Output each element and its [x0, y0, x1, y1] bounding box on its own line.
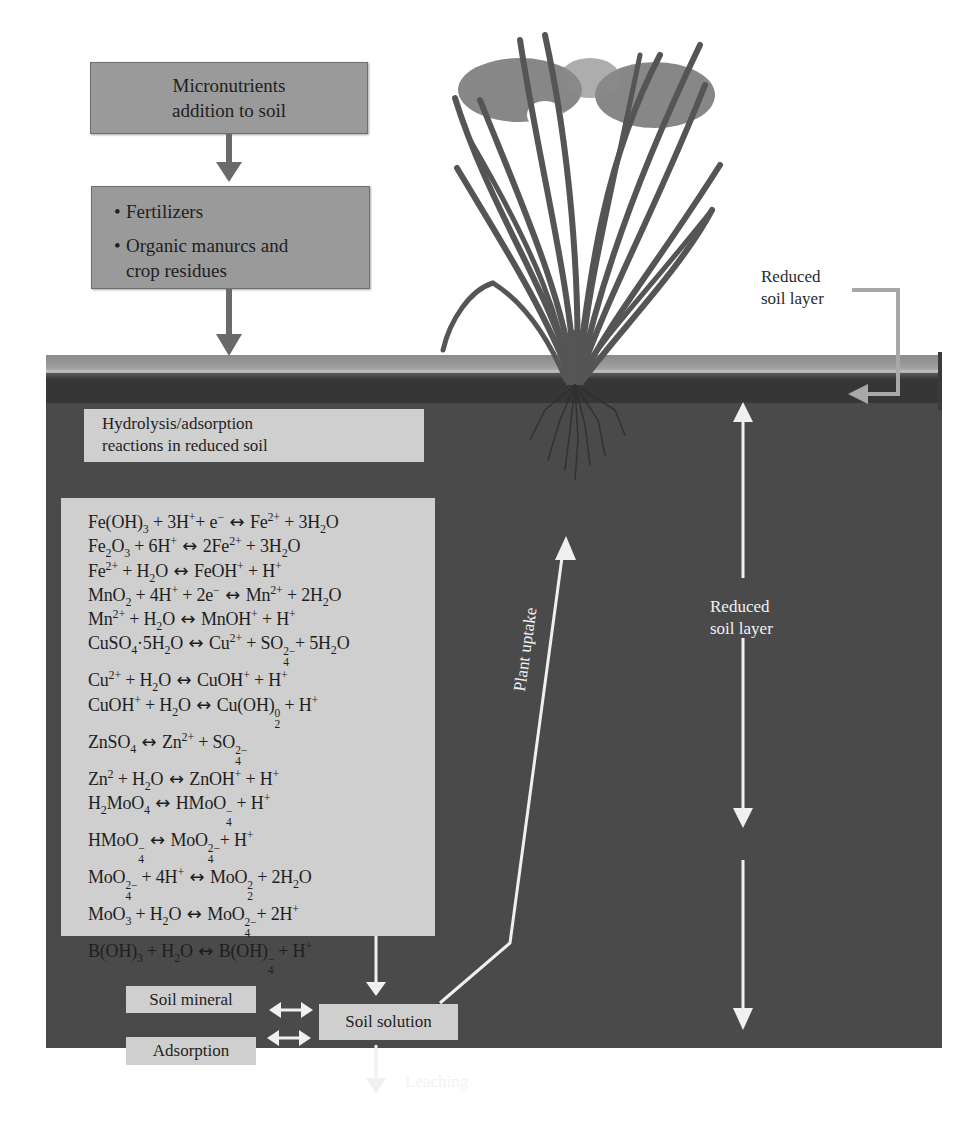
equilibrium-arrow-icon: ↔ — [220, 584, 246, 605]
reaction-lhs: MoO3 + H2O — [88, 904, 181, 924]
equilibrium-arrow-icon: ↔ — [191, 694, 217, 715]
reduced-soil-layer-depth-label: Reduced soil layer — [710, 596, 773, 640]
reaction-rhs: Fe2+ + 3H2O — [250, 512, 339, 532]
reaction-lhs: Zn2 + H2O — [88, 769, 163, 789]
reaction-lhs: HMoO−4 — [88, 830, 145, 850]
reaction-rhs: FeOH+ + H+ — [194, 561, 282, 581]
reaction-lhs: Fe2O3 + 6H+ — [88, 536, 177, 556]
plant-uptake-arrow — [440, 536, 576, 1003]
reaction-lhs: ZnSO4 — [88, 732, 136, 752]
reduced-layer-depth-arrow — [733, 402, 753, 1030]
equilibrium-arrow-icon: ↔ — [175, 608, 201, 629]
reaction-equation: B(OH)3 + H2O ↔ B(OH)−4 + H+ — [88, 939, 435, 976]
adsorption-box: Adsorption — [126, 1037, 256, 1065]
exchange-arrow-adsorption — [267, 1030, 311, 1046]
reaction-equation: H2MoO4 ↔ HMoO−4 + H+ — [88, 791, 435, 828]
reaction-equation: Zn2 + H2O ↔ ZnOH+ + H+ — [88, 767, 435, 791]
arrow-addition-to-sources — [216, 134, 242, 182]
reaction-lhs: H2MoO4 — [88, 793, 150, 813]
equilibrium-arrow-icon: ↔ — [224, 511, 250, 532]
arrow-sources-to-soil — [216, 289, 242, 356]
reaction-rhs: ZnOH+ + H+ — [189, 769, 279, 789]
reaction-equations-list: Fe(OH)3 + 3H++ e− ↔ Fe2+ + 3H2OFe2O3 + 6… — [88, 510, 435, 976]
leaching-arrow — [366, 1045, 386, 1094]
reaction-rhs: B(OH)−4 + H+ — [219, 941, 312, 961]
reaction-rhs: MoO2−4+ 2H+ — [207, 904, 299, 924]
equilibrium-arrow-icon: ↔ — [163, 768, 189, 789]
equilibrium-arrow-icon: ↔ — [136, 731, 162, 752]
reaction-equation: CuSO4·5H2O ↔ Cu2+ + SO2−4+ 5H2O — [88, 631, 435, 668]
reaction-rhs: Mn2+ + 2H2O — [246, 585, 342, 605]
reaction-lhs: MoO2−4 + 4H+ — [88, 867, 184, 887]
reaction-equation: MnO2 + 4H+ + 2e− ↔ Mn2+ + 2H2O — [88, 583, 435, 607]
reaction-lhs: B(OH)3 + H2O — [88, 941, 193, 961]
equilibrium-arrow-icon: ↔ — [150, 792, 176, 813]
reaction-equation: MoO2−4 + 4H+ ↔ MoO22 + 2H2O — [88, 865, 435, 902]
reaction-equation: Mn2+ + H2O ↔ MnOH+ + H+ — [88, 607, 435, 631]
reaction-lhs: CuOH+ + H2O — [88, 695, 191, 715]
reaction-lhs: MnO2 + 4H+ + 2e− — [88, 585, 220, 605]
reaction-rhs: Cu(OH)02 + H+ — [217, 695, 318, 715]
reaction-equation: Fe2+ + H2O ↔ FeOH+ + H+ — [88, 559, 435, 583]
equilibrium-arrow-icon: ↔ — [193, 940, 219, 961]
reduced-soil-layer-callout-label: Reduced soil layer — [761, 266, 824, 310]
reaction-lhs: Fe2+ + H2O — [88, 561, 168, 581]
equilibrium-arrow-icon: ↔ — [171, 669, 197, 690]
reaction-equation: MoO3 + H2O ↔ MoO2−4+ 2H+ — [88, 902, 435, 939]
equilibrium-arrow-icon: ↔ — [184, 866, 210, 887]
reaction-rhs: MnOH+ + H+ — [201, 609, 296, 629]
soil-mineral-box: Soil mineral — [126, 986, 256, 1013]
equilibrium-arrow-icon: ↔ — [177, 535, 203, 556]
equilibrium-arrow-icon: ↔ — [168, 560, 194, 581]
exchange-arrow-soil-mineral — [269, 1002, 313, 1018]
reaction-lhs: Cu2+ + H2O — [88, 670, 171, 690]
reaction-equation: Cu2+ + H2O ↔ CuOH+ + H+ — [88, 668, 435, 692]
reaction-equation: Fe(OH)3 + 3H++ e− ↔ Fe2+ + 3H2O — [88, 510, 435, 534]
reaction-rhs: Zn2+ + SO2−4 — [162, 732, 247, 752]
reaction-rhs: 2Fe2+ + 3H2O — [203, 536, 301, 556]
leaching-label: Leaching — [405, 1072, 468, 1092]
reaction-rhs: MoO22 + 2H2O — [210, 867, 312, 887]
reaction-rhs: MoO2−4+ H+ — [170, 830, 253, 850]
soil-solution-box: Soil solution — [319, 1004, 458, 1040]
hydrolysis-reactions-header-box: Hydrolysis/adsorption reactions in reduc… — [84, 409, 424, 462]
reaction-rhs: HMoO−4 + H+ — [176, 793, 270, 813]
reaction-lhs: Fe(OH)3 + 3H++ e− — [88, 512, 224, 532]
reaction-lhs: CuSO4·5H2O — [88, 633, 183, 653]
reaction-rhs: CuOH+ + H+ — [197, 670, 288, 690]
equilibrium-arrow-icon: ↔ — [183, 632, 209, 653]
reaction-equation: ZnSO4 ↔ Zn2+ + SO2−4 — [88, 730, 435, 767]
reactions-box: Fe(OH)3 + 3H++ e− ↔ Fe2+ + 3H2OFe2O3 + 6… — [61, 498, 435, 936]
equilibrium-arrow-icon: ↔ — [145, 829, 171, 850]
reaction-lhs: Mn2+ + H2O — [88, 609, 175, 629]
reaction-equation: HMoO−4 ↔ MoO2−4+ H+ — [88, 828, 435, 865]
reaction-equation: CuOH+ + H2O ↔ Cu(OH)02 + H+ — [88, 693, 435, 730]
rice-plant-icon — [443, 35, 720, 480]
equilibrium-arrow-icon: ↔ — [181, 903, 207, 924]
reaction-equation: Fe2O3 + 6H+ ↔ 2Fe2+ + 3H2O — [88, 534, 435, 558]
reaction-rhs: Cu2+ + SO2−4+ 5H2O — [209, 633, 349, 653]
reduced-layer-callout-arrow — [848, 290, 898, 404]
